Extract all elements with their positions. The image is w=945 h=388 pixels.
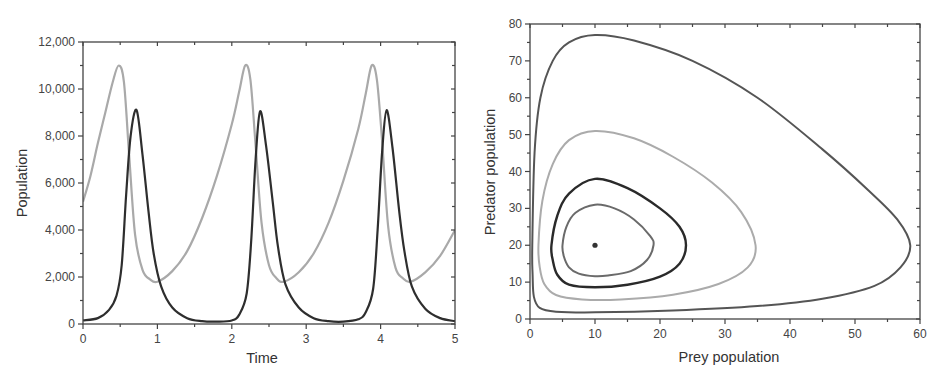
time-series-y-tick-label: 0 — [68, 317, 75, 331]
phase-plane-orbits — [532, 35, 910, 312]
phase-plane-y-tick-label: 20 — [509, 238, 523, 252]
time-series-x-tick-label: 2 — [228, 332, 235, 346]
time-series-x-tick-label: 3 — [303, 332, 310, 346]
time-series-x-tick-label: 1 — [154, 332, 161, 346]
time-series-ticks: 01234502,0004,0006,0008,00010,00012,000 — [38, 35, 458, 346]
phase-plane-x-tick-label: 40 — [783, 327, 797, 341]
phase-plane-y-tick-label: 40 — [509, 165, 523, 179]
time-series-x-tick-label: 0 — [80, 332, 87, 346]
time-series-x-axis-title: Time — [246, 350, 278, 366]
time-series-plot-frame — [83, 42, 455, 324]
time-series-y-tick-label: 8,000 — [45, 129, 75, 143]
figure: 01234502,0004,0006,0008,00010,00012,000 … — [0, 0, 945, 388]
time-series-y-tick-label: 6,000 — [45, 176, 75, 190]
phase-plane-ticks: 010203040506001020304050607080 — [509, 17, 927, 341]
time-series-x-tick-label: 4 — [377, 332, 384, 346]
phase-plane-x-tick-label: 30 — [718, 327, 732, 341]
time-series-chart: 01234502,0004,0006,0008,00010,00012,000 … — [14, 35, 459, 366]
phase-plane-y-tick-label: 0 — [515, 312, 522, 326]
phase-plane-x-axis-title: Prey population — [679, 349, 780, 365]
orbit-4 — [532, 35, 910, 312]
phase-plane-x-tick-label: 10 — [588, 327, 602, 341]
time-series-y-tick-label: 12,000 — [38, 35, 75, 49]
phase-plane-x-tick-label: 20 — [653, 327, 667, 341]
phase-plane-y-tick-label: 60 — [509, 91, 523, 105]
phase-plane-y-tick-label: 30 — [509, 201, 523, 215]
phase-plane-chart: 010203040506001020304050607080 Prey popu… — [482, 17, 927, 365]
time-series-y-tick-label: 10,000 — [38, 82, 75, 96]
time-series-y-tick-label: 2,000 — [45, 270, 75, 284]
phase-plane-y-axis-title: Predator population — [482, 109, 498, 236]
time-series-y-tick-label: 4,000 — [45, 223, 75, 237]
phase-plane-y-tick-label: 50 — [509, 128, 523, 142]
series-line-predator — [83, 110, 455, 322]
orbit-3 — [538, 131, 755, 300]
phase-plane-y-tick-label: 80 — [509, 17, 523, 31]
phase-plane-y-tick-label: 10 — [509, 275, 523, 289]
equilibrium-point — [592, 243, 597, 248]
orbit-1 — [562, 205, 653, 277]
time-series-y-axis-title: Population — [14, 149, 30, 218]
phase-plane-x-tick-label: 60 — [913, 327, 927, 341]
orbit-2 — [551, 179, 686, 288]
phase-plane-x-tick-label: 50 — [848, 327, 862, 341]
time-series-curves — [83, 65, 455, 322]
phase-plane-y-tick-label: 70 — [509, 54, 523, 68]
time-series-x-tick-label: 5 — [452, 332, 459, 346]
phase-plane-x-tick-label: 0 — [527, 327, 534, 341]
